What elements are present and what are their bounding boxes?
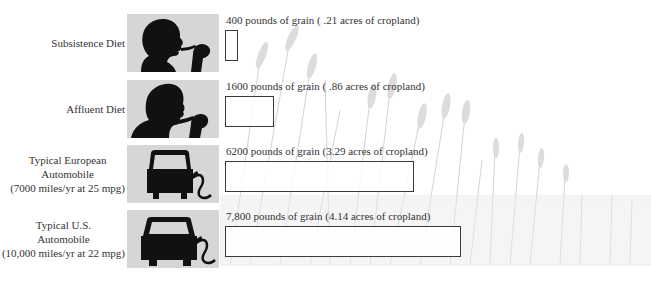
label-line: (7000 miles/yr at 25 mpg) xyxy=(10,181,125,195)
person-eating-silhouette-icon xyxy=(127,14,219,72)
row-label: Affluent Diet xyxy=(0,80,125,138)
label-line: Automobile xyxy=(10,167,125,181)
row-label: Typical European Automobile (7000 miles/… xyxy=(0,145,125,203)
label-line: Automobile xyxy=(2,232,125,246)
row-label: Subsistence Diet xyxy=(0,14,125,72)
heavy-person-eating-silhouette-icon xyxy=(127,80,219,138)
large-car-fuel-nozzle-silhouette-icon xyxy=(127,210,219,268)
grain-bar xyxy=(225,161,414,192)
bar-caption: 7,800 pounds of grain (4.14 acres of cro… xyxy=(226,210,430,222)
grain-bar xyxy=(225,96,274,127)
bar-caption: 6200 pounds of grain (3.29 acres of crop… xyxy=(226,145,428,157)
row-affluent-diet: Affluent Diet 1600 pounds of grain ( .86… xyxy=(0,80,651,140)
row-us-automobile: Typical U.S. Automobile (10,000 miles/yr… xyxy=(0,210,651,270)
label-line: Typical U.S. xyxy=(2,218,125,232)
small-car-fuel-nozzle-silhouette-icon xyxy=(127,145,219,203)
grain-bar xyxy=(225,226,461,257)
grain-bar xyxy=(225,30,238,61)
label-line: Subsistence Diet xyxy=(51,36,125,50)
label-line: Affluent Diet xyxy=(66,102,125,116)
row-label: Typical U.S. Automobile (10,000 miles/yr… xyxy=(0,210,125,268)
bar-caption: 1600 pounds of grain ( .86 acres of crop… xyxy=(226,80,425,92)
bar-caption: 400 pounds of grain ( .21 acres of cropl… xyxy=(226,14,419,26)
row-european-automobile: Typical European Automobile (7000 miles/… xyxy=(0,145,651,205)
label-line: (10,000 miles/yr at 22 mpg) xyxy=(2,246,125,260)
row-subsistence-diet: Subsistence Diet 400 pounds of grain ( .… xyxy=(0,14,651,74)
label-line: Typical European xyxy=(10,153,125,167)
